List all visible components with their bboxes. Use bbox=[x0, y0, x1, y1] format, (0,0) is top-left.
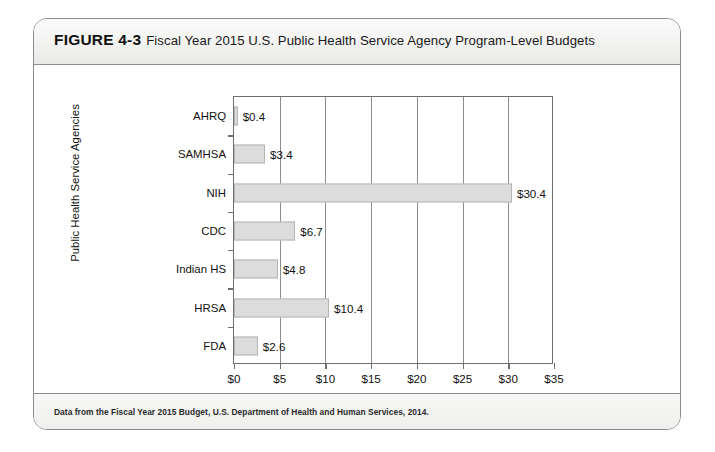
bar bbox=[234, 145, 265, 164]
y-axis-title: Public Health Service Agencies bbox=[69, 78, 81, 288]
y-axis-tick-label: NIH bbox=[206, 187, 226, 199]
bar bbox=[234, 260, 278, 279]
figure-container: FIGURE 4-3Fiscal Year 2015 U.S. Public H… bbox=[33, 18, 681, 430]
bar-value-label: $10.4 bbox=[329, 301, 363, 314]
bar bbox=[234, 183, 512, 202]
x-axis-tick-label: $25 bbox=[453, 372, 472, 385]
bar bbox=[234, 298, 329, 317]
chart-category-row: SAMHSA$3.4 bbox=[234, 135, 552, 173]
chart-category-row: AHRQ$0.4 bbox=[234, 97, 552, 135]
bar bbox=[234, 336, 258, 355]
chart-category-row: FDA$2.6 bbox=[234, 327, 552, 365]
x-axis-tick-label: $15 bbox=[361, 372, 380, 385]
figure-header: FIGURE 4-3Fiscal Year 2015 U.S. Public H… bbox=[34, 19, 680, 65]
y-axis-tick bbox=[228, 212, 234, 213]
figure-title-line: FIGURE 4-3Fiscal Year 2015 U.S. Public H… bbox=[54, 31, 595, 49]
y-axis-tick bbox=[228, 327, 234, 328]
y-axis-tick-label: FDA bbox=[203, 340, 226, 352]
figure-caption: Fiscal Year 2015 U.S. Public Health Serv… bbox=[146, 33, 595, 48]
x-axis-tick-label: $10 bbox=[316, 372, 335, 385]
x-axis-tick bbox=[554, 363, 555, 369]
y-axis-tick-label: Indian HS bbox=[176, 263, 226, 275]
y-axis-tick-label: HRSA bbox=[194, 302, 226, 314]
x-axis-tick-label: $30 bbox=[499, 372, 518, 385]
bar-value-label: $6.7 bbox=[295, 224, 323, 237]
bar bbox=[234, 221, 295, 240]
y-axis-tick-label: CDC bbox=[201, 225, 226, 237]
bar-value-label: $2.6 bbox=[258, 339, 286, 352]
source-note: Data from the Fiscal Year 2015 Budget, U… bbox=[54, 407, 429, 417]
figure-footer: Data from the Fiscal Year 2015 Budget, U… bbox=[34, 393, 680, 429]
y-axis-tick bbox=[228, 135, 234, 136]
chart-category-row: HRSA$10.4 bbox=[234, 288, 552, 326]
bar-value-label: $4.8 bbox=[278, 263, 306, 276]
y-axis-tick bbox=[228, 250, 234, 251]
x-axis-tick-label: $5 bbox=[273, 372, 286, 385]
chart-category-row: NIH$30.4 bbox=[234, 174, 552, 212]
plot-area: $0$5$10$15$20$25$30$35AHRQ$0.4SAMHSA$3.4… bbox=[233, 96, 553, 364]
bar-value-label: $3.4 bbox=[265, 148, 293, 161]
y-axis-tick-label: SAMHSA bbox=[178, 148, 226, 160]
figure-number: FIGURE 4-3 bbox=[54, 31, 141, 48]
y-axis-tick bbox=[228, 288, 234, 289]
y-axis-tick bbox=[228, 174, 234, 175]
bar-value-label: $0.4 bbox=[238, 110, 266, 123]
x-axis-tick-label: $20 bbox=[407, 372, 426, 385]
x-axis-tick-label: $35 bbox=[544, 372, 563, 385]
chart-region: Public Health Service Agencies $0$5$10$1… bbox=[34, 65, 680, 385]
chart-category-row: CDC$6.7 bbox=[234, 212, 552, 250]
y-axis-tick-label: AHRQ bbox=[193, 110, 226, 122]
bar-value-label: $30.4 bbox=[512, 186, 546, 199]
chart-category-row: Indian HS$4.8 bbox=[234, 250, 552, 288]
x-axis-tick-label: $0 bbox=[228, 372, 241, 385]
